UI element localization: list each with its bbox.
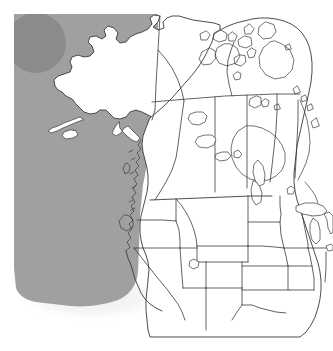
- north-america-map-figure: [0, 0, 333, 351]
- ocean-highlight-circle: [6, 13, 66, 73]
- map-canvas: [0, 0, 333, 351]
